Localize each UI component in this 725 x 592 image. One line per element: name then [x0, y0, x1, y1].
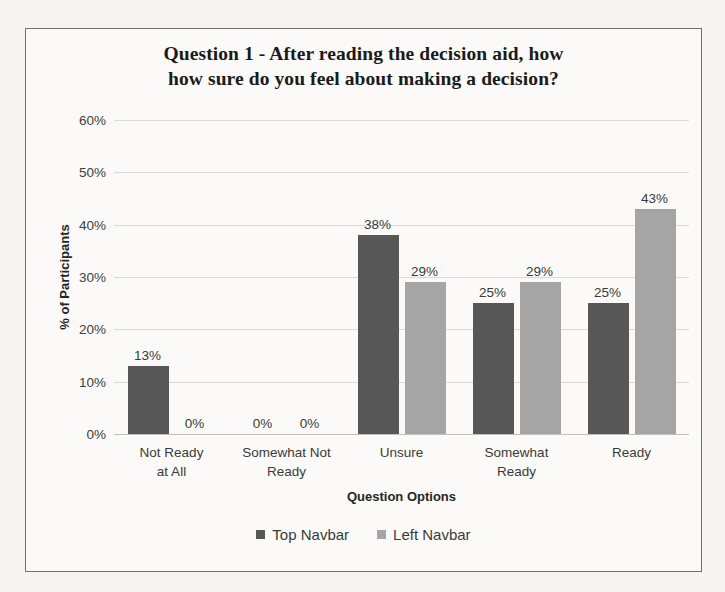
legend-swatch-icon — [256, 530, 265, 539]
bar-group: 25%29%SomewhatReady — [473, 120, 561, 434]
bar[interactable] — [588, 303, 629, 434]
legend-swatch-icon — [377, 530, 386, 539]
bar[interactable] — [520, 282, 561, 434]
y-axis-tick-label: 20% — [79, 322, 106, 337]
legend-label: Top Navbar — [272, 526, 349, 543]
y-axis-tick-label: 30% — [79, 270, 106, 285]
bar[interactable] — [405, 282, 446, 434]
bar[interactable] — [473, 303, 514, 434]
bar-value-label: 43% — [623, 191, 687, 206]
legend-item-left-navbar[interactable]: Left Navbar — [377, 526, 471, 543]
legend-item-top-navbar[interactable]: Top Navbar — [256, 526, 349, 543]
chart-title-line-1: Question 1 - After reading the decision … — [163, 43, 563, 64]
x-axis-category-label-line: Ready — [219, 462, 354, 481]
y-axis-tick-label: 60% — [79, 113, 106, 128]
gridline-0: 0% — [114, 434, 689, 435]
bar[interactable] — [635, 209, 676, 434]
chart-frame: Question 1 - After reading the decision … — [25, 28, 702, 572]
bar-value-label: 0% — [163, 416, 227, 431]
x-axis-title: Question Options — [114, 489, 689, 504]
bar-value-label: 29% — [508, 264, 572, 279]
bar-value-label: 38% — [346, 217, 410, 232]
bar-group: 25%43%Ready — [588, 120, 676, 434]
y-axis-tick-label: 10% — [79, 374, 106, 389]
bar-group: 38%29%Unsure — [358, 120, 446, 434]
legend-label: Left Navbar — [393, 526, 471, 543]
bar-value-label: 0% — [278, 416, 342, 431]
chart-title-line-2: how sure do you feel about making a deci… — [26, 66, 701, 91]
chart-title: Question 1 - After reading the decision … — [26, 41, 701, 91]
y-axis-tick-label: 0% — [86, 427, 106, 442]
x-axis-category-label-line: Ready — [564, 443, 699, 462]
bar-group: 13%0%Not Readyat All — [128, 120, 216, 434]
bar-value-label: 25% — [576, 285, 640, 300]
bar-group: 0%0%Somewhat NotReady — [243, 120, 331, 434]
x-axis-category-label: Ready — [564, 443, 699, 462]
x-axis-category-label-line: Ready — [449, 462, 584, 481]
bar-value-label: 25% — [461, 285, 525, 300]
bar-value-label: 13% — [116, 348, 180, 363]
y-axis-tick-label: 50% — [79, 165, 106, 180]
y-axis-title: % of Participants — [57, 224, 72, 329]
bar-value-label: 29% — [393, 264, 457, 279]
y-axis-tick-label: 40% — [79, 217, 106, 232]
chart-legend: Top NavbarLeft Navbar — [26, 526, 701, 543]
plot-area: 60%50%40%30%20%10%0%13%0%Not Readyat All… — [114, 120, 689, 434]
